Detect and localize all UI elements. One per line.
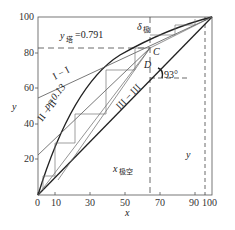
y-tick-100: 100: [19, 11, 34, 22]
x-tick-100: 100: [202, 197, 217, 208]
y-top-label: y: [59, 30, 65, 41]
y-axis-label: y: [11, 101, 17, 112]
y-right-label: y: [185, 149, 191, 160]
angle-label: 93°: [164, 69, 178, 80]
y-top-sub: 塔: [66, 35, 73, 44]
x-tick-70: 70: [155, 197, 165, 208]
xy-diagram: 0 10 30 50 70 90 100 20 40 60 80 100 x y…: [0, 0, 235, 230]
y-tick-20: 20: [24, 153, 34, 164]
delta-sub: 极: [143, 25, 150, 34]
x-tick-10: 10: [51, 197, 61, 208]
point-d: D: [143, 59, 152, 70]
x-tick-30: 30: [85, 197, 95, 208]
point-c: C: [153, 46, 160, 57]
y-top-value: =0.791: [75, 29, 103, 40]
x-axis-label: x: [124, 207, 130, 218]
x-tick-90: 90: [189, 197, 199, 208]
y-tick-40: 40: [24, 118, 34, 129]
line-3-label: III − III: [114, 82, 143, 112]
line-c-top: [150, 17, 212, 48]
delta-label: δ: [137, 21, 142, 32]
y-tick-80: 80: [24, 47, 34, 58]
x-inner-label: x: [112, 163, 118, 174]
y-tick-60: 60: [24, 82, 34, 93]
angle-arc-icon: [158, 68, 163, 78]
x-tick-0: 0: [35, 197, 40, 208]
line-1-label: I − I: [51, 64, 71, 82]
x-inner-sub: 极空: [119, 167, 133, 176]
